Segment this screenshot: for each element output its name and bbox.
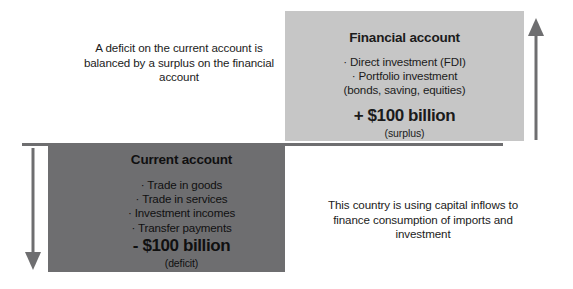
list-item: · Transfer payments: [78, 221, 285, 235]
list-item: · Trade in goods: [78, 178, 285, 192]
note-capital-inflows: This country is using capital inflows to…: [313, 198, 533, 242]
current-account-amount-note: (deficit): [78, 257, 285, 270]
financial-account-bullet-list: · Direct investment (FDI) · Portfolio in…: [285, 55, 524, 98]
note-deficit-balanced: A deficit on the current account is bala…: [82, 41, 276, 85]
current-account-bullet-list: · Trade in goods · Trade in services · I…: [78, 178, 285, 235]
list-item: · Portfolio investment: [285, 69, 524, 83]
current-account-box: Current account · Trade in goods · Trade…: [48, 145, 285, 272]
current-account-amount: - $100 billion: [78, 236, 285, 256]
financial-account-box: Financial account · Direct investment (F…: [285, 11, 524, 141]
list-item: · Investment incomes: [78, 206, 285, 220]
arrow-up-icon: [525, 16, 547, 140]
financial-account-amount-note: (surplus): [285, 127, 524, 140]
financial-account-title: Financial account: [285, 30, 524, 46]
list-item: · Direct investment (FDI): [285, 55, 524, 69]
financial-account-amount: + $100 billion: [285, 106, 524, 126]
diagram-canvas: Financial account · Direct investment (F…: [0, 0, 573, 289]
balance-divider-line: [22, 143, 503, 146]
current-account-bullets: · Trade in goods · Trade in services · I…: [78, 178, 285, 235]
financial-account-bullets: · Direct investment (FDI) · Portfolio in…: [285, 55, 524, 83]
current-account-text-group: Current account · Trade in goods · Trade…: [78, 145, 285, 272]
arrow-down-icon: [22, 148, 44, 272]
list-item: · Trade in services: [78, 192, 285, 206]
financial-account-subline: (bonds, saving, equities): [285, 83, 524, 97]
current-account-title: Current account: [78, 152, 285, 168]
